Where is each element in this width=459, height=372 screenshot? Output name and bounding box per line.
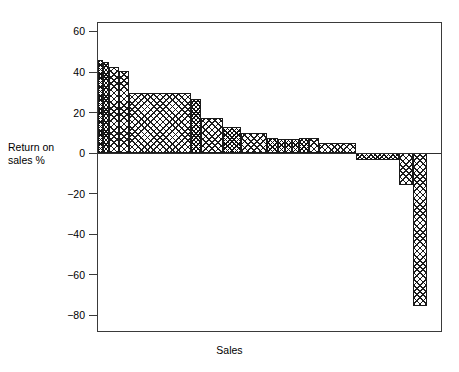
bar-11	[278, 139, 285, 153]
y-tick-mark-0	[89, 153, 97, 154]
y-tick-mark-60	[89, 31, 97, 32]
y-tick-mark-20	[89, 112, 97, 113]
y-tick-mark-neg20	[89, 193, 97, 194]
bar-18	[399, 153, 413, 185]
chart-figure: 60 40 20 0 −20 −40 −60 −80 Return on sal…	[0, 0, 459, 372]
y-tick-label-neg60: −60	[43, 270, 85, 281]
y-tick-label-neg20: −20	[43, 189, 85, 200]
y-tick-mark-neg40	[89, 234, 97, 235]
bar-5	[129, 93, 191, 153]
y-axis-title: Return on sales %	[8, 141, 88, 166]
y-tick-label-20: 20	[43, 108, 85, 119]
bar-6	[191, 99, 201, 153]
y-tick-label-60: 60	[43, 26, 85, 37]
bar-12	[285, 139, 292, 153]
y-tick-label-40: 40	[43, 67, 85, 78]
y-tick-label-neg40: −40	[43, 229, 85, 240]
bar-16	[319, 143, 356, 153]
x-axis-title: Sales	[0, 344, 459, 356]
bar-17	[356, 153, 399, 160]
y-tick-mark-neg80	[89, 315, 97, 316]
bar-14	[299, 138, 309, 153]
bar-19	[413, 153, 427, 306]
bar-3	[109, 67, 119, 153]
bar-9	[241, 133, 267, 153]
y-tick-mark-neg60	[89, 274, 97, 275]
plot-area	[97, 22, 442, 332]
y-tick-label-neg80: −80	[43, 310, 85, 321]
bar-8	[223, 127, 241, 153]
y-tick-mark-40	[89, 72, 97, 73]
bar-7	[201, 118, 223, 153]
bar-10	[267, 138, 278, 153]
bar-15	[309, 138, 319, 153]
bar-13	[292, 139, 299, 153]
zero-baseline	[98, 153, 442, 154]
bar-4	[119, 71, 129, 153]
